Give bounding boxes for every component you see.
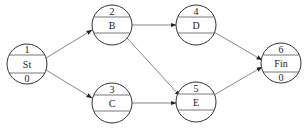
node-name: C xyxy=(109,98,116,109)
node-5-e: 5 E xyxy=(176,82,216,122)
network-diagram: 1 St 0 2 B 3 C 4 D 5 E xyxy=(0,0,308,129)
edge-4-6 xyxy=(214,32,262,60)
node-number: 5 xyxy=(194,83,199,94)
edge-1-2 xyxy=(46,30,92,58)
node-name: Fin xyxy=(274,58,287,69)
edge-5-6 xyxy=(214,67,262,95)
node-number: 6 xyxy=(279,44,284,55)
node-bottom: 0 xyxy=(279,72,284,83)
node-name: E xyxy=(193,97,199,108)
node-3-c: 3 C xyxy=(92,83,132,123)
node-bottom: 0 xyxy=(25,73,30,84)
edge-2-5 xyxy=(127,38,180,96)
node-1-start: 1 St 0 xyxy=(7,44,47,84)
node-name: St xyxy=(23,59,32,70)
node-2-b: 2 B xyxy=(92,5,132,45)
edges xyxy=(46,25,262,103)
node-number: 4 xyxy=(194,6,199,17)
node-number: 2 xyxy=(110,6,115,17)
node-4-d: 4 D xyxy=(176,5,216,45)
node-name: D xyxy=(192,20,199,31)
node-6-finish: 6 Fin 0 xyxy=(261,43,301,83)
node-name: B xyxy=(109,20,116,31)
edge-1-3 xyxy=(46,70,92,98)
node-number: 1 xyxy=(25,44,30,55)
node-number: 3 xyxy=(110,84,115,95)
